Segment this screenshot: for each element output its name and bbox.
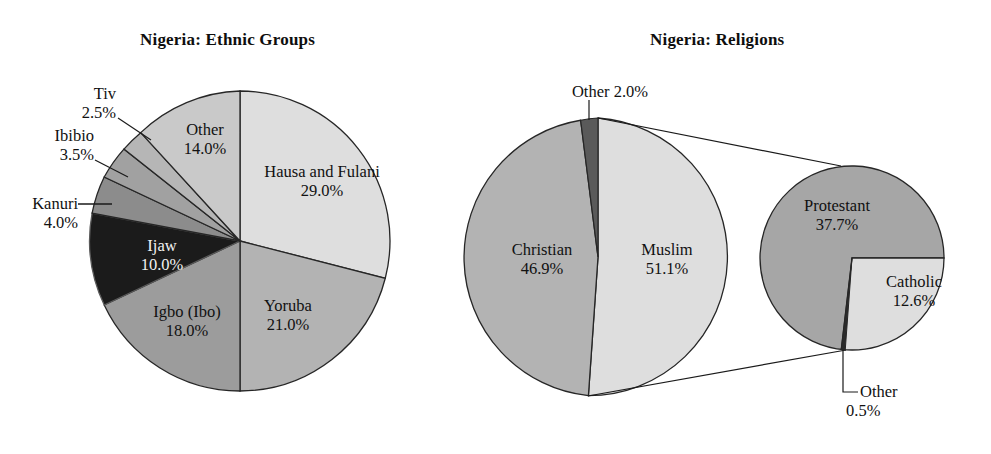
label-tiv: Tiv 2.5% [28, 84, 116, 122]
label-catholic-name: Catholic [886, 272, 942, 291]
label-ibibio-name: Ibibio [55, 126, 94, 145]
label-christian-name: Christian [512, 240, 573, 259]
label-muslim-value: 51.1% [612, 259, 722, 278]
label-muslim-name: Muslim [641, 240, 692, 259]
label-ijaw-value: 10.0% [112, 255, 212, 274]
page-title-ethnic-groups: Nigeria: Ethnic Groups [140, 30, 315, 50]
label-other-subpie-name: Other [860, 382, 898, 401]
label-ibibio-value: 3.5% [10, 145, 94, 164]
label-igbo-ibo: Igbo (Ibo) 18.0% [122, 302, 252, 340]
label-kanuri: Kanuri 4.0% [0, 194, 78, 232]
label-kanuri-name: Kanuri [32, 194, 78, 213]
label-hausa-and-fulani-name: Hausa and Fulani [264, 162, 379, 181]
label-igbo-ibo-value: 18.0% [122, 321, 252, 340]
label-catholic: Catholic 12.6% [862, 272, 966, 310]
label-christian: Christian 46.9% [484, 240, 600, 278]
label-other-religion-text: Other 2.0% [572, 82, 648, 101]
leader-line-subpie-other [843, 350, 858, 392]
label-igbo-ibo-name: Igbo (Ibo) [153, 302, 220, 321]
label-catholic-value: 12.6% [862, 291, 966, 310]
label-ijaw: Ijaw 10.0% [112, 236, 212, 274]
label-yoruba-name: Yoruba [264, 296, 312, 315]
chart-stage: Nigeria: Ethnic Groups Nigeria: Religion… [0, 0, 991, 454]
label-other-religion: Other 2.0% [540, 82, 680, 101]
label-other-subpie-value: 0.5% [846, 401, 950, 420]
label-muslim: Muslim 51.1% [612, 240, 722, 278]
label-other-subpie: Other 0.5% [860, 382, 950, 420]
label-tiv-name: Tiv [94, 84, 116, 103]
label-protestant: Protestant 37.7% [772, 196, 902, 234]
label-ibibio: Ibibio 3.5% [10, 126, 94, 164]
page-title-religions: Nigeria: Religions [650, 30, 784, 50]
label-tiv-value: 2.5% [28, 103, 116, 122]
label-protestant-value: 37.7% [772, 215, 902, 234]
label-other-ethnic-name: Other [186, 120, 224, 139]
label-other-ethnic-value: 14.0% [155, 139, 255, 158]
label-other-ethnic: Other 14.0% [155, 120, 255, 158]
label-ijaw-name: Ijaw [147, 236, 176, 255]
label-kanuri-value: 4.0% [0, 213, 78, 232]
label-protestant-name: Protestant [804, 196, 870, 215]
label-hausa-and-fulani: Hausa and Fulani 29.0% [232, 162, 412, 200]
label-hausa-and-fulani-value: 29.0% [232, 181, 412, 200]
label-christian-value: 46.9% [484, 259, 600, 278]
